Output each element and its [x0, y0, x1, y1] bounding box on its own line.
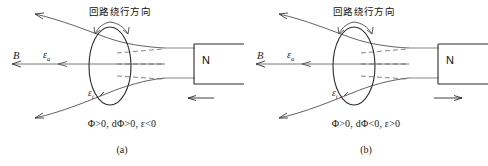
panel-a: 回路绕行方向 B εa εi N Φ>0, dΦ>0, ε<0 (a) — [0, 0, 244, 166]
panel-caption: (b) — [360, 145, 372, 155]
loop-direction-title: 回路绕行方向 — [89, 7, 151, 17]
panel-a-drawing — [0, 0, 244, 166]
emf-area-label: εa — [287, 50, 294, 63]
panel-formula: Φ>0, dΦ>0, ε<0 — [88, 119, 157, 129]
emf-induced-subscript: i — [336, 93, 338, 100]
field-label-B: B — [13, 51, 19, 62]
magnet-pole-label: N — [446, 55, 454, 66]
figure-root: 回路绕行方向 B εa εi N Φ>0, dΦ>0, ε<0 (a) — [0, 0, 488, 166]
emf-induced-label: εi — [332, 89, 338, 100]
emf-area-subscript: a — [47, 55, 50, 62]
panel-formula: Φ>0, dΦ<0, ε>0 — [332, 119, 401, 129]
loop-direction-title: 回路绕行方向 — [333, 7, 395, 17]
emf-induced-label: εi — [88, 89, 94, 100]
emf-area-subscript: a — [291, 55, 294, 62]
panel-b: 回路绕行方向 B εa εi N Φ>0, dΦ<0, ε>0 (b) — [244, 0, 488, 166]
emf-induced-subscript: i — [92, 93, 94, 100]
emf-area-label: εa — [43, 50, 50, 63]
field-line-lower — [279, 78, 409, 118]
field-line-lower — [35, 78, 165, 118]
panel-b-drawing — [244, 0, 488, 166]
field-label-B: B — [257, 51, 263, 62]
panel-caption: (a) — [116, 145, 127, 155]
magnet-pole-label: N — [202, 55, 210, 66]
